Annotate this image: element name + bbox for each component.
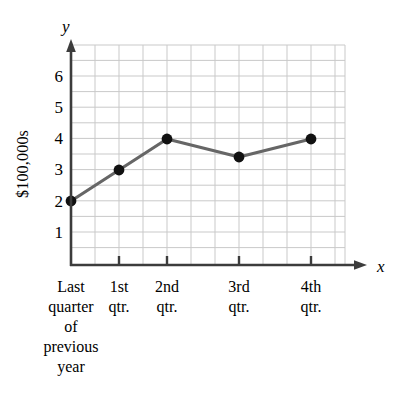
chart-figure: $100,000s y x 6 5 4 3 2 1 Last quarter o… — [0, 0, 403, 411]
y-tick-label-4: 4 — [43, 130, 63, 147]
y-tick-label-5: 5 — [43, 99, 63, 116]
data-point — [162, 134, 173, 145]
data-point — [234, 152, 245, 163]
y-axis-letter: y — [62, 18, 70, 35]
y-tick-label-6: 6 — [43, 68, 63, 85]
y-tick-label-3: 3 — [43, 161, 63, 178]
y-tick-label-2: 2 — [43, 193, 63, 210]
x-tick-label-3rd-qtr: 3rd qtr. — [209, 277, 269, 317]
x-tick-label-4th-qtr: 4th qtr. — [281, 277, 341, 317]
x-tick-label-2nd-qtr: 2nd qtr. — [137, 277, 197, 317]
y-axis-title: $100,000s — [14, 99, 32, 229]
data-point — [114, 165, 125, 176]
y-tick-label-1: 1 — [43, 224, 63, 241]
data-point — [306, 134, 317, 145]
x-axis-arrowhead — [354, 260, 367, 270]
x-axis-letter: x — [377, 258, 385, 275]
